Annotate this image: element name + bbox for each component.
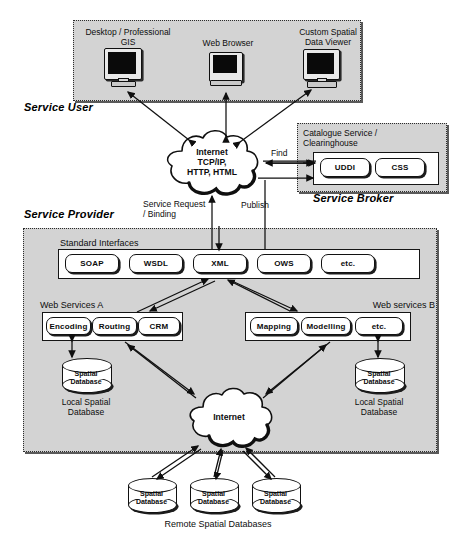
arrow-label-publish: Publish (241, 200, 269, 210)
desktop-monitor-icon-web-browser (209, 52, 247, 88)
web-services-a-title: Web Services A (40, 300, 160, 310)
desktop-monitor-icon-desktop-gis (104, 48, 146, 87)
catalogue-service-title: Catalogue Service / Clearinghouse (303, 128, 443, 148)
cylinder-label-local-database-a: Spatial Database (62, 370, 110, 386)
interface-button-etc[interactable]: etc. (321, 254, 375, 273)
cylinder-label-remote-database-1: Spatial Database (128, 490, 175, 506)
client-label-web-browser: Web Browser (180, 38, 276, 48)
cylinder-icon-remote-database-3: Spatial Database (252, 478, 299, 512)
interface-button-xml[interactable]: XML (193, 254, 247, 273)
local-database-a-caption: Local Spatial Database (42, 397, 130, 417)
registry-button-uddi[interactable]: UDDI (320, 158, 370, 177)
interface-button-soap[interactable]: SOAP (65, 254, 119, 273)
desktop-monitor-icon-custom-viewer (303, 49, 345, 89)
service-button-mapping[interactable]: Mapping (250, 317, 298, 335)
registry-button-css[interactable]: CSS (375, 158, 425, 177)
cylinder-icon-local-database-b: Spatial Database (355, 358, 403, 392)
local-database-b-caption: Local Spatial Database (335, 397, 423, 417)
cloud-icon-internet-inner: Internet (182, 385, 276, 451)
cylinder-icon-remote-database-2: Spatial Database (190, 478, 237, 512)
arrow-label-service-request: Service Request / Binding (143, 199, 205, 219)
interface-button-wsdl[interactable]: WSDL (129, 254, 183, 273)
remote-databases-caption: Remote Spatial Databases (133, 519, 303, 529)
interface-button-ows[interactable]: OWS (257, 254, 311, 273)
service-broker-zone-title: Service Broker (313, 192, 393, 204)
cloud-label-internet-top: Internet TCP/IP, HTTP, HTML (158, 147, 266, 178)
cylinder-icon-remote-database-1: Spatial Database (128, 478, 175, 512)
service-button-etc-b[interactable]: etc. (355, 317, 403, 335)
service-button-crm[interactable]: CRM (138, 317, 180, 335)
client-label-desktop-gis: Desktop / Professional GIS (68, 27, 188, 47)
web-services-b-title: Web services B (330, 300, 435, 310)
cylinder-label-local-database-b: Spatial Database (355, 370, 403, 386)
arrow-label-find: Find (271, 148, 288, 158)
cylinder-label-remote-database-3: Spatial Database (252, 490, 299, 506)
service-provider-zone-title: Service Provider (24, 208, 114, 220)
service-user-zone-title: Service User (24, 101, 93, 113)
service-button-encoding[interactable]: Encoding (46, 317, 91, 335)
service-button-modelling[interactable]: Modelling (301, 317, 351, 335)
diagram-canvas: Service User Desktop / Professional GIS … (0, 0, 459, 538)
cloud-label-internet-inner: Internet (182, 412, 276, 422)
service-button-routing[interactable]: Routing (92, 317, 137, 335)
client-label-custom-viewer: Custom Spatial Data Viewer (275, 27, 381, 47)
cylinder-label-remote-database-2: Spatial Database (190, 490, 237, 506)
standard-interfaces-title: Standard Interfaces (60, 238, 200, 248)
cloud-icon-internet-top: Internet TCP/IP, HTTP, HTML (158, 127, 266, 199)
cylinder-icon-local-database-a: Spatial Database (62, 358, 110, 392)
